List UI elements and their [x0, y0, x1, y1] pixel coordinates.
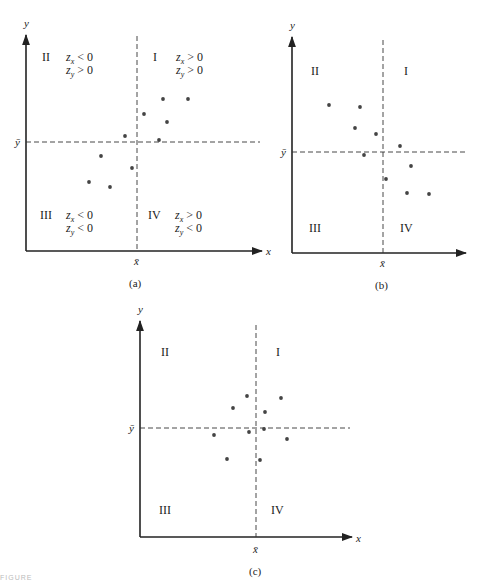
panel-a: y x x̄ ȳ (a) II zx < 0 zy > 0 I zx > 0 z… — [14, 17, 271, 290]
data-point — [87, 180, 91, 184]
data-point — [327, 103, 331, 107]
mean-y-label: ȳ — [280, 146, 287, 158]
quadrant-iii-label: III — [309, 221, 321, 235]
data-point — [358, 105, 362, 109]
data-point — [108, 185, 112, 189]
data-point — [186, 97, 190, 101]
data-point — [231, 406, 235, 410]
figure-label: FIGURE — [0, 574, 32, 581]
quadrant-i-zy: zy > 0 — [175, 63, 203, 79]
quadrant-i-label: I — [276, 345, 280, 359]
quadrant-ii-label: II — [42, 50, 50, 64]
data-point — [427, 192, 431, 196]
data-point — [245, 394, 249, 398]
data-point — [247, 430, 251, 434]
quadrant-iv-label: IV — [148, 208, 161, 222]
data-point — [99, 154, 103, 158]
data-point — [398, 144, 402, 148]
quadrant-i-label: I — [404, 64, 408, 78]
quadrant-i-label: I — [153, 50, 157, 64]
data-point — [258, 458, 262, 462]
panel-caption: (a) — [129, 277, 142, 290]
quadrant-iii-zy: zy < 0 — [65, 221, 93, 237]
panel-b: y x̄ ȳ (b) II I III IV — [280, 19, 466, 292]
data-point — [409, 164, 413, 168]
data-point — [142, 112, 146, 116]
quadrant-iv-label: IV — [271, 503, 284, 517]
quadrant-iv-zy: zy < 0 — [174, 221, 202, 237]
scatter-figure: y x x̄ ȳ (a) II zx < 0 zy > 0 I zx > 0 z… — [0, 0, 484, 584]
y-axis-label: y — [23, 17, 29, 29]
x-axis-label: x — [265, 245, 271, 257]
data-points — [87, 97, 190, 189]
mean-x-label: x̄ — [252, 543, 258, 555]
data-point — [353, 126, 357, 130]
quadrant-iii-label: III — [159, 503, 171, 517]
data-points — [327, 103, 431, 196]
quadrant-ii-zy: zy > 0 — [65, 63, 93, 79]
panel-caption: (c) — [249, 565, 262, 578]
quadrant-iii-label: III — [40, 208, 52, 222]
data-point — [374, 132, 378, 136]
data-point — [279, 396, 283, 400]
mean-x-label: x̄ — [379, 257, 385, 269]
data-point — [165, 120, 169, 124]
x-axis-label: x — [355, 532, 361, 544]
data-point — [263, 410, 267, 414]
mean-y-label: ȳ — [14, 136, 21, 148]
quadrant-ii-label: II — [161, 345, 169, 359]
data-point — [212, 433, 216, 437]
data-point — [123, 134, 127, 138]
data-point — [225, 457, 229, 461]
data-point — [285, 437, 289, 441]
data-point — [130, 166, 134, 170]
data-point — [405, 191, 409, 195]
y-axis-label: y — [137, 303, 143, 315]
data-point — [157, 138, 161, 142]
data-point — [384, 177, 388, 181]
panel-c: y x x̄ ȳ (c) II I III IV — [128, 303, 361, 578]
y-axis-label: y — [289, 19, 295, 31]
quadrant-ii-label: II — [311, 64, 319, 78]
data-point — [262, 427, 266, 431]
mean-x-label: x̄ — [133, 255, 139, 267]
data-point — [161, 97, 165, 101]
data-point — [362, 153, 366, 157]
quadrant-iv-label: IV — [400, 221, 413, 235]
mean-y-label: ȳ — [128, 422, 135, 434]
panel-caption: (b) — [375, 279, 388, 292]
